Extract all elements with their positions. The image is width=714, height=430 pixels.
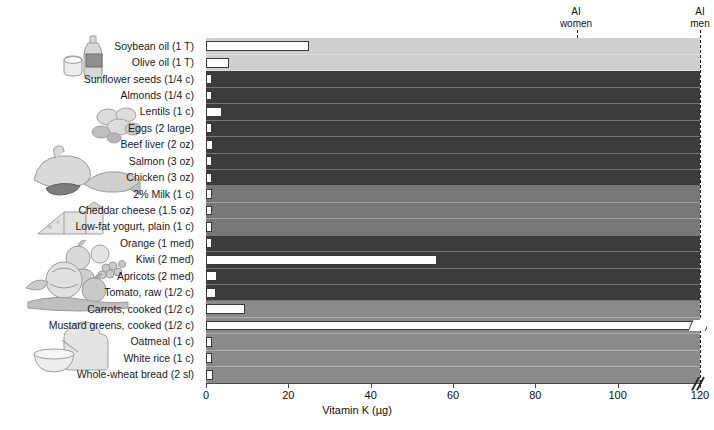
category-label: 2% Milk (1 c) bbox=[133, 188, 194, 200]
row-separator bbox=[206, 350, 700, 351]
food-group-band-dairy bbox=[206, 186, 700, 235]
category-label: Oatmeal (1 c) bbox=[130, 335, 194, 347]
row-separator bbox=[206, 300, 700, 301]
ai-women-label-line1: AI bbox=[560, 6, 592, 18]
bar-orange-1-med bbox=[206, 238, 212, 248]
x-tick bbox=[453, 383, 454, 388]
bar-cheddar-cheese-1-5-oz bbox=[206, 206, 212, 216]
bar-oatmeal-1-c bbox=[206, 337, 212, 347]
ai-men-label-line2: men bbox=[690, 18, 709, 30]
row-separator bbox=[206, 333, 700, 334]
bar-mustard-greens-cooked-1-2-c bbox=[206, 321, 706, 331]
category-label: Almonds (1/4 c) bbox=[120, 89, 194, 101]
food-group-band-vegetables-and-grains bbox=[206, 301, 700, 383]
x-tick bbox=[700, 383, 701, 388]
row-separator bbox=[206, 70, 700, 71]
category-label: Apricots (2 med) bbox=[117, 270, 194, 282]
vitamin-k-bar-chart: AI women AI men Soybean oil (1 T)Olive o… bbox=[0, 0, 714, 430]
category-label: Tomato, raw (1/2 c) bbox=[104, 286, 194, 298]
bar-beef-liver-2-oz bbox=[206, 140, 213, 150]
bar-chicken-3-oz bbox=[206, 173, 212, 183]
category-label: Mustard greens, cooked (1/2 c) bbox=[49, 319, 194, 331]
bar-soybean-oil-1-t bbox=[206, 41, 309, 51]
x-tick-label: 80 bbox=[529, 389, 541, 401]
bar-almonds-1-4-c bbox=[206, 91, 212, 101]
category-label: Carrots, cooked (1/2 c) bbox=[87, 303, 194, 315]
x-axis-line bbox=[206, 383, 702, 384]
x-axis-title: Vitamin K (µg) bbox=[0, 404, 714, 416]
row-separator bbox=[206, 153, 700, 154]
ai-men-label-line1: AI bbox=[690, 6, 709, 18]
row-separator bbox=[206, 185, 700, 186]
row-separator bbox=[206, 136, 700, 137]
category-label: Kiwi (2 med) bbox=[136, 253, 194, 265]
bar-2-milk-1-c bbox=[206, 189, 212, 199]
row-separator bbox=[206, 366, 700, 367]
row-separator bbox=[206, 317, 700, 318]
row-separator bbox=[206, 169, 700, 170]
category-label: Orange (1 med) bbox=[120, 237, 194, 249]
x-tick-label: 60 bbox=[447, 389, 459, 401]
row-separator bbox=[206, 87, 700, 88]
category-label-column: Soybean oil (1 T)Olive oil (1 T)Sunflowe… bbox=[0, 38, 200, 383]
bar-lentils-1-c bbox=[206, 107, 222, 117]
category-label: Cheddar cheese (1.5 oz) bbox=[78, 204, 194, 216]
row-separator bbox=[206, 235, 700, 236]
category-label: Olive oil (1 T) bbox=[132, 56, 194, 68]
bar-carrots-cooked-1-2-c bbox=[206, 304, 245, 314]
bar-low-fat-yogurt-plain-1-c bbox=[206, 222, 212, 232]
bar-sunflower-seeds-1-4-c bbox=[206, 74, 212, 84]
ai-men-label: AI men bbox=[690, 6, 709, 29]
bar-eggs-2-large bbox=[206, 123, 212, 133]
category-label: White rice (1 c) bbox=[123, 352, 194, 364]
category-label: Soybean oil (1 T) bbox=[114, 40, 194, 52]
x-tick-label: 120 bbox=[691, 389, 709, 401]
row-separator bbox=[206, 54, 700, 55]
category-label: Low-fat yogurt, plain (1 c) bbox=[76, 220, 194, 232]
bar-kiwi-2-med bbox=[206, 255, 437, 265]
category-label: Eggs (2 large) bbox=[128, 122, 194, 134]
row-separator bbox=[206, 120, 700, 121]
plot-area bbox=[206, 38, 700, 383]
x-tick-label: 100 bbox=[608, 389, 626, 401]
category-label: Lentils (1 c) bbox=[140, 105, 194, 117]
x-tick-label: 20 bbox=[282, 389, 294, 401]
row-separator bbox=[206, 284, 700, 285]
bar-salmon-3-oz bbox=[206, 156, 212, 166]
bar-olive-oil-1-t bbox=[206, 58, 229, 68]
row-separator bbox=[206, 251, 700, 252]
ai-women-label: AI women bbox=[560, 6, 592, 29]
row-separator bbox=[206, 202, 700, 203]
category-label: Whole-wheat bread (2 sl) bbox=[77, 368, 194, 380]
x-tick bbox=[288, 383, 289, 388]
row-separator bbox=[206, 218, 700, 219]
bar-break-mark bbox=[689, 320, 707, 332]
x-tick bbox=[371, 383, 372, 388]
bar-tomato-raw-1-2-c bbox=[206, 288, 216, 298]
x-tick bbox=[535, 383, 536, 388]
row-separator bbox=[206, 268, 700, 269]
bar-white-rice-1-c bbox=[206, 353, 212, 363]
x-tick-label: 0 bbox=[203, 389, 209, 401]
category-label: Sunflower seeds (1/4 c) bbox=[84, 73, 194, 85]
bar-whole-wheat-bread-2-sl bbox=[206, 370, 213, 380]
category-label: Salmon (3 oz) bbox=[129, 155, 194, 167]
ai-women-label-line2: women bbox=[560, 18, 592, 30]
bar-apricots-2-med bbox=[206, 271, 217, 281]
x-tick bbox=[206, 383, 207, 388]
category-label: Chicken (3 oz) bbox=[126, 171, 194, 183]
x-tick-label: 40 bbox=[365, 389, 377, 401]
x-tick bbox=[618, 383, 619, 388]
row-separator bbox=[206, 103, 700, 104]
category-label: Beef liver (2 oz) bbox=[120, 138, 194, 150]
